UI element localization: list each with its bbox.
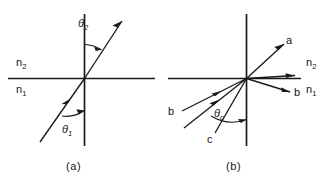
panel-b: θc a b b c n2 n1 (b) [168,14,316,172]
ray-label-b-right: b [294,86,300,98]
optics-refraction-figure: θ2 θ1 n2 n1 (a) [0,0,329,177]
caption-panel-a: (a) [66,160,81,172]
ray-label-a-transmitted: a [286,34,293,46]
medium-label-n2-b: n2 [306,56,316,71]
medium-label-n2-a: n2 [16,56,26,71]
figure-canvas: θ2 θ1 n2 n1 (a) [0,0,329,177]
medium-label-n1-b: n1 [306,83,316,98]
label-theta2: θ2 [78,17,89,32]
ray-label-b-left: b [168,105,174,117]
panel-a: θ2 θ1 n2 n1 (a) [8,14,155,172]
refracted-ray-a [85,21,123,79]
incident-ray-critical-arrowhead [210,100,220,106]
ray-a-arrowhead [274,44,284,50]
caption-panel-b: (b) [226,160,241,172]
label-thetac: θc [214,107,224,122]
ray-label-c: c [207,133,213,145]
ray-b-grazing-arrowhead [285,73,295,78]
medium-label-n1-a: n1 [16,83,26,98]
label-theta1: θ1 [62,123,72,138]
